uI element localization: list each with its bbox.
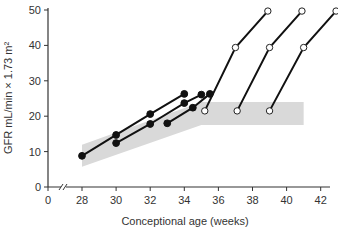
y-axis-label: GFR mL/min × 1.73 m²	[2, 42, 14, 155]
y-tick-label: 40	[29, 39, 41, 51]
series-term-infant-1	[202, 8, 271, 114]
data-point-open	[232, 44, 238, 50]
x-tick-label: 38	[246, 194, 258, 206]
series-line	[237, 11, 302, 111]
data-point-open	[266, 108, 272, 114]
x-tick-label: 28	[76, 194, 88, 206]
data-series	[79, 8, 338, 159]
data-point-open	[234, 108, 240, 114]
data-point-filled	[181, 90, 188, 97]
x-axis-label: Conceptional age (weeks)	[121, 215, 248, 227]
data-point-filled	[79, 152, 86, 159]
data-point-filled	[164, 120, 171, 127]
series-line	[205, 11, 268, 111]
y-tick-label: 0	[35, 181, 41, 193]
data-point-filled	[113, 132, 120, 139]
x-tick-label: 0	[45, 194, 51, 206]
gfr-chart: 0102030405002830323436384042 Conceptiona…	[0, 0, 338, 231]
x-tick-label: 34	[178, 194, 190, 206]
data-point-filled	[147, 111, 154, 118]
series-term-infant-3	[266, 8, 338, 114]
data-point-open	[266, 44, 272, 50]
data-point-filled	[147, 121, 154, 128]
data-point-filled	[198, 91, 205, 98]
data-point-filled	[113, 140, 120, 147]
data-point-open	[333, 8, 338, 14]
data-point-open	[299, 8, 305, 14]
x-tick-label: 40	[280, 194, 292, 206]
data-point-filled	[189, 104, 196, 111]
y-tick-label: 30	[29, 75, 41, 87]
chart-canvas: 0102030405002830323436384042 Conceptiona…	[0, 0, 338, 231]
series-line	[270, 11, 336, 111]
y-tick-label: 50	[29, 4, 41, 16]
x-tick-label: 32	[144, 194, 156, 206]
x-tick-label: 42	[315, 194, 327, 206]
y-tick-label: 20	[29, 110, 41, 122]
series-term-infant-2	[234, 8, 305, 114]
x-tick-label: 30	[110, 194, 122, 206]
y-tick-label: 10	[29, 146, 41, 158]
data-point-filled	[181, 100, 188, 107]
data-point-open	[265, 8, 271, 14]
data-point-open	[202, 108, 208, 114]
x-tick-label: 36	[212, 194, 224, 206]
data-point-open	[300, 44, 306, 50]
